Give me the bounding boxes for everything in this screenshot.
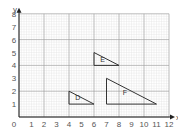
x-tick-label: 4 [67, 120, 72, 129]
triangle-label: F [123, 89, 127, 96]
x-tick-label: 11 [152, 120, 161, 129]
x-tick-label: 5 [79, 120, 84, 129]
x-tick-label: 9 [129, 120, 134, 129]
triangle-label: D [75, 94, 80, 101]
y-tick-label: 1 [12, 100, 17, 109]
coordinate-grid-diagram: 0123456789101112x12345678y DEF [0, 0, 178, 131]
x-tick-label: 3 [54, 120, 59, 129]
triangle-label: E [100, 56, 105, 63]
y-axis-label: y [13, 5, 17, 14]
axes [17, 8, 176, 120]
x-tick-label: 12 [165, 120, 174, 129]
y-tick-label: 4 [12, 61, 17, 70]
x-tick-label: 0 [12, 120, 17, 129]
y-tick-label: 2 [12, 87, 17, 96]
y-tick-label: 6 [12, 36, 17, 45]
x-tick-label: 8 [117, 120, 122, 129]
y-tick-label: 3 [12, 74, 17, 83]
y-tick-label: 5 [12, 49, 17, 58]
x-tick-label: 1 [29, 120, 34, 129]
x-tick-label: 2 [42, 120, 47, 129]
x-tick-label: 6 [92, 120, 97, 129]
x-tick-label: 7 [104, 120, 109, 129]
tick-labels: 0123456789101112x12345678y [12, 5, 178, 129]
x-axis-label: x [176, 113, 178, 122]
x-tick-label: 10 [140, 120, 149, 129]
y-tick-label: 7 [12, 23, 17, 32]
